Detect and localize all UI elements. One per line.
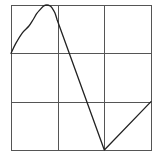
- line-chart: [0, 0, 160, 162]
- data-series-line: [11, 5, 151, 150]
- chart-grid: [11, 5, 151, 150]
- plot-frame: [12, 6, 152, 151]
